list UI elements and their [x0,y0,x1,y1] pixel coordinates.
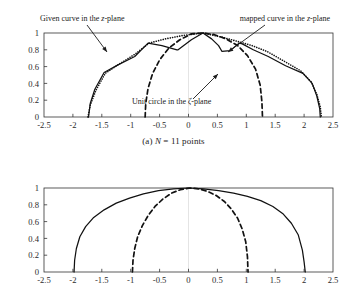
x-tick-label: 2.5 [328,120,339,130]
x-tick-label: 0.5 [212,275,223,285]
figure-conformal-mapping: -2.5-2-1.5-1-0.500.511.522.500.20.40.60.… [0,0,347,301]
x-tick-label: 0 [186,120,190,130]
panel-a-n11: -2.5-2-1.5-1-0.500.511.522.500.20.40.60.… [0,0,347,150]
series-dashed [132,188,248,272]
x-tick-label: 2 [302,120,306,130]
annotation-given-curve: Given curve in the z-plane [40,14,125,23]
panel-b-n21: -2.5-2-1.5-1-0.500.511.522.500.20.40.60.… [0,150,347,301]
annotation-given-curve-before: Given curve in the [40,14,101,23]
y-tick-label: 0 [35,267,39,277]
x-tick-label: -2 [69,120,76,130]
y-tick-label: 1 [35,28,39,38]
annotation-mapped-curve: mapped curve in the z-plane [240,14,331,23]
annotation-given-curve-after: -plane [104,14,124,23]
x-tick-label: -0.5 [153,275,167,285]
y-tick-label: 0.2 [28,250,39,260]
plot-b-svg: -2.5-2-1.5-1-0.500.511.522.500.20.40.60.… [0,150,347,301]
y-tick-label: 0.4 [28,234,39,244]
x-tick-label: 2 [302,275,306,285]
y-tick-label: 0.6 [28,217,39,227]
x-tick-label: 1 [244,275,248,285]
x-tick-label: -1 [127,120,134,130]
y-tick-label: 0.8 [28,200,39,210]
plot-a-svg: -2.5-2-1.5-1-0.500.511.522.500.20.40.60.… [0,0,347,150]
caption-a-prefix: (a) [142,136,155,146]
series-solid [74,188,305,272]
x-tick-label: -2.5 [37,120,51,130]
annotation-mapped-curve-before: mapped curve in the [240,14,307,23]
annotation-unit-circle: Unit circle in the ζ-plane [132,97,212,106]
y-tick-label: 0.4 [28,79,39,89]
x-tick-label: -1 [127,275,134,285]
y-tick-label: 1 [35,183,39,193]
x-tick-label: 1.5 [270,275,281,285]
y-tick-label: 0.2 [28,95,39,105]
y-tick-label: 0 [35,112,39,122]
x-tick-label: -2 [69,275,76,285]
x-tick-label: 0 [186,275,190,285]
caption-a-suffix: = 11 points [161,136,205,146]
caption-panel-a: (a) N = 11 points [0,136,347,146]
x-tick-label: -0.5 [153,120,167,130]
annotation-unit-circle-before: Unit circle in the [132,97,188,106]
arrow-unit-circle-line [193,74,218,99]
annotation-unit-circle-after: -plane [191,97,211,106]
x-tick-label: -1.5 [95,275,109,285]
x-tick-label: 2.5 [328,275,339,285]
x-tick-label: -2.5 [37,275,51,285]
y-tick-label: 0.6 [28,62,39,72]
y-tick-label: 0.8 [28,45,39,55]
x-tick-label: 0.5 [212,120,223,130]
x-tick-label: -1.5 [95,120,109,130]
arrow-given-curve-head [102,47,107,52]
annotation-mapped-curve-after: -plane [310,14,330,23]
x-tick-label: 1 [244,120,248,130]
x-tick-label: 1.5 [270,120,281,130]
